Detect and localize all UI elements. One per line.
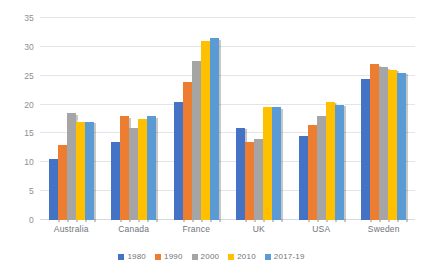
- legend-label: 1980: [127, 252, 146, 261]
- bar-slot: [111, 18, 120, 220]
- legend-item[interactable]: 2010: [228, 252, 256, 261]
- bar-slot: [85, 18, 94, 220]
- bar-slot: [308, 18, 317, 220]
- bar[interactable]: [335, 105, 344, 220]
- bar-slot: [272, 18, 281, 220]
- x-axis-category-label: Canada: [103, 224, 166, 234]
- bar-slot: [147, 18, 156, 220]
- bar[interactable]: [67, 113, 76, 220]
- bar-slot: [370, 18, 379, 220]
- bar-slot: [326, 18, 335, 220]
- bar[interactable]: [210, 38, 219, 220]
- bar[interactable]: [49, 159, 58, 220]
- bar[interactable]: [58, 145, 67, 220]
- bar[interactable]: [388, 70, 397, 220]
- legend-label: 2000: [201, 252, 220, 261]
- bar-slot: [138, 18, 147, 220]
- bar-group: [290, 18, 353, 220]
- bar-chart: 05101520253035 AustraliaCanadaFranceUKUS…: [0, 0, 423, 276]
- y-axis-tick-label: 0: [0, 215, 34, 225]
- bar-slot: [236, 18, 245, 220]
- y-axis-tick-label: 20: [0, 100, 34, 110]
- bar-group: [165, 18, 228, 220]
- bar-slot: [174, 18, 183, 220]
- x-axis-category-label: UK: [228, 224, 291, 234]
- bar-slot: [245, 18, 254, 220]
- y-axis-tick-label: 35: [0, 13, 34, 23]
- bar[interactable]: [201, 41, 210, 220]
- bar[interactable]: [245, 142, 254, 220]
- legend-item[interactable]: 2000: [192, 252, 220, 261]
- bar-slot: [129, 18, 138, 220]
- bar[interactable]: [147, 116, 156, 220]
- bar[interactable]: [272, 107, 281, 220]
- bar[interactable]: [85, 122, 94, 220]
- legend-label: 1990: [164, 252, 183, 261]
- bar-slot: [76, 18, 85, 220]
- bar-slot: [388, 18, 397, 220]
- y-axis-tick-label: 30: [0, 42, 34, 52]
- y-axis-labels: 05101520253035: [0, 18, 34, 220]
- bar-slot: [120, 18, 129, 220]
- bar-groups: [40, 18, 415, 220]
- x-axis-category-label: Sweden: [353, 224, 416, 234]
- x-axis-category-label: USA: [290, 224, 353, 234]
- bar-slot: [58, 18, 67, 220]
- bar-group: [353, 18, 416, 220]
- legend-label: 2017-19: [274, 252, 305, 261]
- bar[interactable]: [397, 73, 406, 220]
- bar-group: [40, 18, 103, 220]
- bar-slot: [210, 18, 219, 220]
- chart-legend: 19801990200020102017-19: [0, 252, 423, 261]
- bar[interactable]: [183, 82, 192, 221]
- bar[interactable]: [361, 79, 370, 220]
- y-axis-tick-label: 25: [0, 71, 34, 81]
- bar-slot: [299, 18, 308, 220]
- legend-item[interactable]: 2017-19: [265, 252, 305, 261]
- bar[interactable]: [263, 107, 272, 220]
- bar-group: [103, 18, 166, 220]
- bar-slot: [67, 18, 76, 220]
- legend-swatch-icon: [265, 254, 271, 260]
- legend-label: 2010: [237, 252, 256, 261]
- y-axis-tick-label: 5: [0, 186, 34, 196]
- bar-slot: [335, 18, 344, 220]
- bar-slot: [183, 18, 192, 220]
- bar-slot: [379, 18, 388, 220]
- bar[interactable]: [192, 61, 201, 220]
- bar-group: [228, 18, 291, 220]
- x-axis-category-label: France: [165, 224, 228, 234]
- bar[interactable]: [76, 122, 85, 220]
- bar[interactable]: [254, 139, 263, 220]
- legend-swatch-icon: [155, 254, 161, 260]
- bar[interactable]: [326, 102, 335, 220]
- bar[interactable]: [129, 128, 138, 220]
- bar[interactable]: [379, 67, 388, 220]
- bar[interactable]: [174, 102, 183, 220]
- bar-slot: [397, 18, 406, 220]
- bar[interactable]: [236, 128, 245, 220]
- bar[interactable]: [120, 116, 129, 220]
- bar-slot: [201, 18, 210, 220]
- bar-slot: [361, 18, 370, 220]
- legend-swatch-icon: [118, 254, 124, 260]
- bar[interactable]: [299, 136, 308, 220]
- x-axis-category-label: Australia: [40, 224, 103, 234]
- legend-swatch-icon: [228, 254, 234, 260]
- bar-slot: [192, 18, 201, 220]
- bar[interactable]: [308, 125, 317, 220]
- y-axis-tick-label: 10: [0, 157, 34, 167]
- legend-swatch-icon: [192, 254, 198, 260]
- bar[interactable]: [370, 64, 379, 220]
- bar-slot: [254, 18, 263, 220]
- bar[interactable]: [317, 116, 326, 220]
- x-axis-labels: AustraliaCanadaFranceUKUSASweden: [40, 224, 415, 234]
- bar[interactable]: [111, 142, 120, 220]
- bar-slot: [263, 18, 272, 220]
- legend-item[interactable]: 1990: [155, 252, 183, 261]
- bar[interactable]: [138, 119, 147, 220]
- y-axis-tick-label: 15: [0, 128, 34, 138]
- bar-slot: [317, 18, 326, 220]
- legend-item[interactable]: 1980: [118, 252, 146, 261]
- bar-slot: [49, 18, 58, 220]
